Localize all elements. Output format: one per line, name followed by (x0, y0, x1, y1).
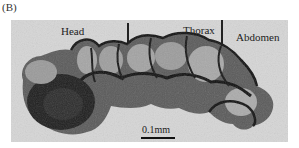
panel-label: (B) (2, 1, 17, 13)
label-abdomen: Abdomen (236, 31, 279, 43)
scale-bar (141, 137, 175, 139)
thorax-abdomen-divider (221, 20, 223, 46)
micrograph: Head Thorax Abdomen 0.1mm (11, 20, 288, 142)
head-thorax-divider (127, 23, 129, 43)
label-head: Head (61, 25, 84, 37)
label-thorax: Thorax (183, 24, 215, 36)
scale-bar-label: 0.1mm (142, 124, 170, 135)
